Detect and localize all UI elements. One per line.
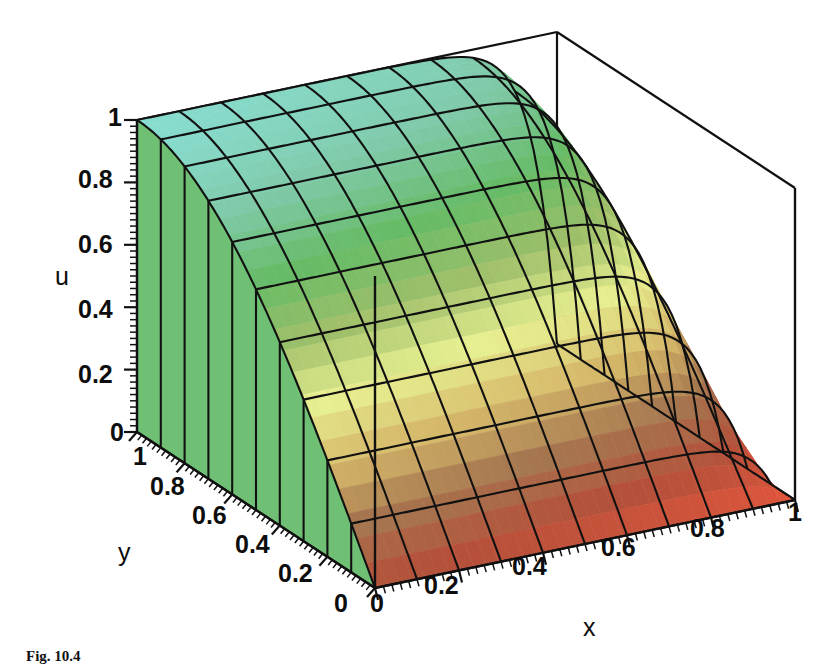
axis-tick [585,544,587,551]
axis-tick [285,532,289,537]
axis-tick [171,457,175,462]
axis-tick [195,473,199,478]
tick-label-y-5: 0 [334,589,348,618]
axis-tick [247,507,251,512]
axis-label-y: y [118,538,131,567]
tick-label-x-5: 1 [788,498,802,527]
tick-label-x-2: 0.4 [512,552,547,581]
axis-tick [736,512,738,519]
axis-tick [319,554,323,559]
tick-label-x-4: 0.8 [690,514,725,543]
axis-tick [467,569,469,576]
axis-tick [484,565,486,572]
surface-mesh [137,57,795,588]
axis-tick [501,562,503,569]
axis-tick [677,525,679,532]
axis-tick [272,526,280,535]
axis-tick [238,501,242,506]
axis-tick [357,579,361,584]
axis-tick [304,544,308,549]
axis-tick [753,509,755,516]
axis-tick [328,560,332,565]
axis-tick [214,485,218,490]
axis-label-u: u [55,262,69,291]
tick-label-x-1: 0.2 [424,571,459,600]
tick-label-y-4: 0.2 [278,559,313,588]
axis-tick [333,563,337,568]
figure-caption: Fig. 10.4 [26,648,81,665]
tick-label-y-0: 1 [133,442,147,471]
axis-tick [266,519,270,524]
axis-tick [185,466,189,471]
axis-tick [233,498,237,503]
axis-tick [314,551,318,556]
axis-tick [190,469,194,474]
tick-label-u-3: 0.4 [78,295,113,324]
tick-label-y-3: 0.4 [235,530,270,559]
tick-label-x-0: 0 [370,589,384,618]
tick-label-u-5: 0 [110,418,124,447]
axis-tick [778,504,780,511]
axis-tick [147,441,151,446]
axis-tick [551,551,553,558]
axis-tick [271,522,275,527]
axis-tick [652,530,654,537]
axis-tick [728,514,730,521]
axis-tick [644,532,646,539]
axis-tick [568,548,570,555]
axis-tick [177,463,185,472]
axis-tick [745,511,747,518]
axis-tick [669,526,671,533]
axis-tick [200,476,204,481]
axis-tick [309,547,313,552]
tick-label-x-3: 0.6 [601,533,636,562]
axis-tick [209,482,213,487]
axis-tick [257,513,261,518]
axis-tick [290,535,294,540]
axis-tick [352,576,356,581]
axis-tick [319,557,327,566]
axis-tick [577,546,579,553]
axis-tick [223,491,227,496]
tick-label-u-1: 0.8 [78,165,113,194]
axis-tick [219,488,223,493]
axis-tick [204,479,208,484]
axis-tick [400,583,402,590]
tick-label-u-4: 0.2 [78,360,113,389]
axis-tick [347,572,351,577]
axis-tick [661,528,663,535]
axis-tick [417,579,419,586]
axis-tick [295,538,299,543]
axis-tick [162,451,166,456]
axis-tick [300,541,304,546]
axis-tick [761,507,763,514]
axis-label-x: x [583,613,596,642]
axis-tick [157,448,161,453]
axis-tick [409,581,411,588]
tick-label-y-1: 0.8 [150,472,185,501]
axis-tick [338,566,342,571]
axis-tick [361,582,365,587]
bounding-box-edge [557,32,795,188]
axis-tick [686,523,688,530]
axis-tick [593,542,595,549]
axis-tick [342,569,346,574]
axis-tick [281,529,285,534]
tick-label-y-2: 0.6 [192,501,227,530]
axis-tick [176,460,180,465]
axis-tick [476,567,478,574]
axis-tick [262,516,266,521]
axis-tick [152,444,156,449]
tick-label-u-0: 1 [108,103,122,132]
axis-tick [560,549,562,556]
axis-tick [459,570,462,582]
axis-tick [770,505,772,512]
axis-tick [166,454,170,459]
axis-tick [252,510,256,515]
axis-tick [242,504,246,509]
axis-tick [493,563,495,570]
figure-container: u y x 10.80.60.40.20 10.80.60.40.20 00.2… [0,0,827,665]
axis-tick [138,435,142,440]
axis-tick [392,584,394,591]
axis-tick [129,432,137,441]
